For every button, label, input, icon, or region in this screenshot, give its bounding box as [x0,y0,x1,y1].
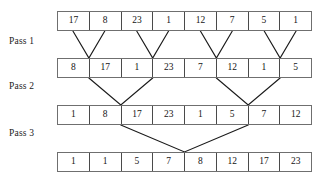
array-row-initial: 17 8 23 1 12 7 5 1 [57,11,312,31]
array-cell: 1 [90,153,122,171]
merge-v-p1-d [264,31,296,58]
array-cell: 5 [217,106,249,124]
array-cell: 23 [122,12,154,30]
array-row-after-pass-3: 1 1 5 7 8 12 17 23 [57,152,312,172]
merge-v-p1-b [137,31,169,58]
merge-v-p2-b [216,78,280,105]
array-row-after-pass-2: 1 8 17 23 1 5 7 12 [57,105,312,125]
array-cell: 12 [185,12,217,30]
array-cell: 8 [185,153,217,171]
array-cell: 7 [185,59,217,77]
array-cell: 7 [153,153,185,171]
pass-3-label: Pass 3 [9,128,34,138]
array-cell: 12 [280,106,311,124]
array-cell: 7 [217,12,249,30]
array-cell: 17 [58,12,90,30]
array-cell: 1 [122,59,154,77]
merge-v-p3-a [121,125,248,152]
array-cell: 5 [122,153,154,171]
array-cell: 7 [249,106,281,124]
array-cell: 12 [217,153,249,171]
pass-1-label: Pass 1 [9,36,34,46]
array-cell: 8 [90,106,122,124]
array-cell: 8 [90,12,122,30]
array-cell: 1 [58,153,90,171]
array-cell: 1 [153,12,185,30]
array-cell: 17 [90,59,122,77]
mergesort-diagram: Pass 1 Pass 2 Pass 3 17 8 23 1 12 7 5 1 … [0,0,328,186]
array-cell: 23 [280,153,311,171]
array-cell: 23 [153,106,185,124]
pass-2-label: Pass 2 [9,81,34,91]
array-cell: 5 [249,12,281,30]
array-row-after-pass-1: 8 17 1 23 7 12 1 5 [57,58,312,78]
merge-v-p1-a [73,31,105,58]
array-cell: 12 [217,59,249,77]
merge-v-p2-a [89,78,153,105]
array-cell: 1 [249,59,281,77]
array-cell: 17 [249,153,281,171]
array-cell: 1 [280,12,311,30]
array-cell: 1 [58,106,90,124]
merge-v-p1-c [200,31,232,58]
array-cell: 5 [280,59,311,77]
array-cell: 8 [58,59,90,77]
array-cell: 1 [185,106,217,124]
array-cell: 17 [122,106,154,124]
array-cell: 23 [153,59,185,77]
